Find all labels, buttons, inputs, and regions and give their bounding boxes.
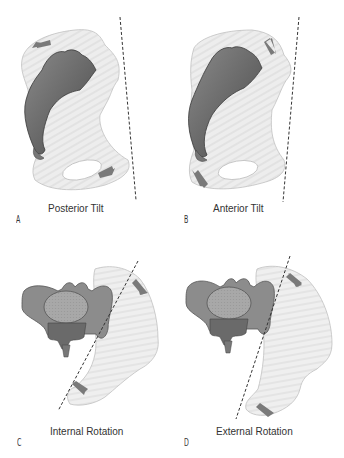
panel-d-external-rotation: External Rotation D: [172, 229, 344, 458]
coccyx-shape: [62, 345, 70, 357]
panel-b-anterior-tilt: Anterior Tilt B: [172, 0, 344, 229]
panel-caption: Internal Rotation: [50, 426, 123, 437]
pelvis-superior-illustration: [172, 229, 344, 458]
pelvis-lateral-illustration: [0, 0, 172, 229]
panel-letter: B: [184, 214, 188, 225]
vertebral-body: [44, 291, 88, 323]
panel-caption: Posterior Tilt: [48, 203, 104, 214]
panel-c-internal-rotation: Internal Rotation C: [0, 229, 172, 458]
pelvis-lateral-illustration: [172, 0, 344, 229]
panel-caption: External Rotation: [216, 426, 293, 437]
pelvis-superior-illustration: [0, 229, 172, 458]
reference-dashed-line: [283, 17, 299, 202]
panel-caption: Anterior Tilt: [213, 203, 264, 214]
panel-letter: A: [16, 214, 20, 225]
panel-letter: C: [17, 437, 21, 448]
panel-a-posterior-tilt: Posterior Tilt A: [0, 0, 172, 229]
vertebral-body: [207, 287, 251, 319]
panel-letter: D: [184, 437, 189, 448]
coccyx-shape: [224, 341, 232, 353]
